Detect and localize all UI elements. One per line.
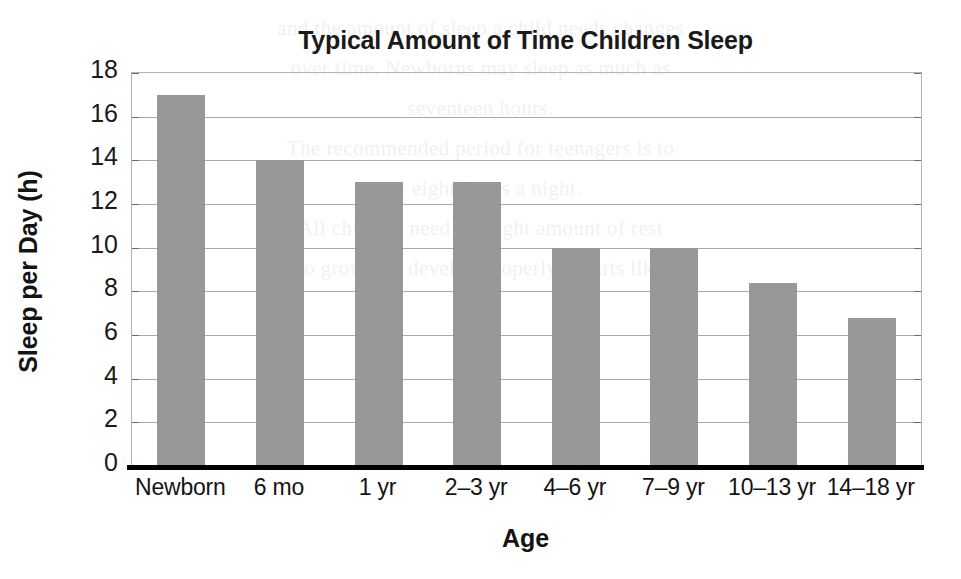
plot-area [131, 72, 922, 466]
x-axis-tick-label: 14–18 yr [821, 474, 920, 501]
y-axis-tick-mark [132, 248, 139, 249]
y-axis-tick-mark [132, 422, 139, 423]
y-axis-tick-label: 14 [58, 142, 118, 171]
x-axis-tick-label: 7–9 yr [624, 474, 723, 501]
y-axis-tick-mark [914, 117, 921, 118]
x-axis-baseline [127, 465, 924, 470]
y-axis-tick-mark [132, 335, 139, 336]
y-axis-tick-mark [914, 73, 921, 74]
y-axis-tick-mark [914, 335, 921, 336]
gridline [132, 291, 921, 292]
y-axis-tick-mark [914, 160, 921, 161]
x-axis-tick-label: 6 mo [230, 474, 329, 501]
gridline [132, 160, 921, 161]
y-axis-tick-mark [132, 204, 139, 205]
y-axis-tick-mark [914, 204, 921, 205]
x-axis-tick-label: 4–6 yr [526, 474, 625, 501]
x-axis-tick-label: 1 yr [328, 474, 427, 501]
bar [848, 318, 896, 466]
gridline [132, 335, 921, 336]
bar [552, 248, 600, 466]
y-axis-tick-label: 16 [58, 99, 118, 128]
y-axis-tick-mark [914, 248, 921, 249]
y-axis-tick-mark [132, 117, 139, 118]
x-axis-tick-label: 2–3 yr [427, 474, 526, 501]
y-axis-tick-label: 10 [58, 230, 118, 259]
bar [749, 283, 797, 466]
y-axis-tick-mark [132, 73, 139, 74]
chart-title: Typical Amount of Time Children Sleep [131, 26, 920, 55]
y-axis-tick-label: 6 [58, 317, 118, 346]
gridline [132, 204, 921, 205]
bar [355, 182, 403, 466]
y-axis-tick-label: 12 [58, 186, 118, 215]
x-axis-tick-label: Newborn [131, 474, 230, 501]
gridline [132, 248, 921, 249]
y-axis-title: Sleep per Day (h) [14, 122, 43, 422]
y-axis-tick-label: 0 [58, 448, 118, 477]
y-axis-tick-label: 4 [58, 361, 118, 390]
bar-chart-figure: Typical Amount of Time Children Sleep Sl… [0, 0, 961, 579]
y-axis-tick-mark [132, 160, 139, 161]
bar [453, 182, 501, 466]
y-axis-tick-label: 8 [58, 273, 118, 302]
y-axis-tick-mark [132, 291, 139, 292]
x-axis-title: Age [131, 524, 920, 553]
y-axis-tick-mark [914, 379, 921, 380]
gridline [132, 422, 921, 423]
y-axis-tick-mark [914, 422, 921, 423]
gridline [132, 117, 921, 118]
bar [256, 160, 304, 466]
x-axis-tick-label: 10–13 yr [723, 474, 822, 501]
bar [650, 248, 698, 466]
y-axis-tick-label: 18 [58, 55, 118, 84]
y-axis-tick-label: 2 [58, 404, 118, 433]
bar [157, 95, 205, 466]
gridline [132, 379, 921, 380]
y-axis-tick-mark [914, 291, 921, 292]
y-axis-tick-mark [132, 379, 139, 380]
